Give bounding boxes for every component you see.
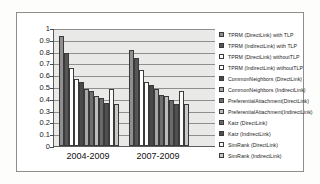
legend-item: TPRM (DirectLink) with TLP [219, 29, 319, 40]
figure-page: 10.90.80.70.60.50.40.30.20.10 2004-20092… [0, 0, 320, 184]
legend-item: PreferentialAttachment(DirectLink) [219, 95, 319, 106]
legend-item: CommonNeighbors (IndirectLink) [219, 84, 319, 95]
x-axis-category-label: 2007-2009 [123, 151, 193, 161]
legend-label: SimRank (IndirectLink) [228, 153, 282, 159]
legend-swatch-icon [219, 76, 224, 81]
legend-label: Katz (DirectLink) [228, 120, 267, 126]
bar-group [59, 29, 119, 146]
legend-swatch-icon [219, 43, 224, 48]
legend-swatch-icon [219, 131, 224, 136]
legend-label: SimRank (DirectLink) [228, 142, 278, 148]
y-axis-label: 0.4 [40, 96, 50, 103]
group-gap [119, 145, 129, 146]
bar [184, 104, 189, 146]
legend-swatch-icon [219, 54, 224, 59]
legend-item: Katz (IndirectLink) [219, 128, 319, 139]
legend-label: Katz (IndirectLink) [228, 131, 271, 137]
x-axis-category-label: 2004-2009 [53, 151, 123, 161]
legend-swatch-icon [219, 109, 224, 114]
legend-swatch-icon [219, 120, 224, 125]
bar-groups [54, 29, 215, 146]
legend-label: TPRM (DirectLink) with TLP [228, 32, 293, 38]
chart-legend: TPRM (DirectLink) with TLPTPRM (Indirect… [219, 29, 319, 161]
y-axis-label: 0.7 [40, 60, 50, 67]
y-axis-label: 0.5 [40, 84, 50, 91]
y-axis-label: 0.9 [40, 37, 50, 44]
legend-swatch-icon [219, 98, 224, 103]
y-axis: 10.90.80.70.60.50.40.30.20.10 [17, 29, 50, 147]
legend-label: CommonNeighbors (IndirectLink) [228, 87, 306, 93]
legend-swatch-icon [219, 87, 224, 92]
y-axis-label: 0.3 [40, 108, 50, 115]
y-axis-label: 0.1 [40, 131, 50, 138]
y-axis-label: 0.6 [40, 72, 50, 79]
chart-figure-frame: 10.90.80.70.60.50.40.30.20.10 2004-20092… [16, 12, 304, 172]
legend-item: SimRank (DirectLink) [219, 139, 319, 150]
bar [114, 104, 119, 146]
legend-label: TPRM (IndirectLink) with TLP [228, 43, 297, 49]
legend-swatch-icon [219, 153, 224, 158]
legend-item: TPRM (DirectLink) withoutTLP [219, 51, 319, 62]
y-axis-tick [50, 147, 54, 148]
legend-label: TPRM (DirectLink) withoutTLP [228, 54, 299, 60]
legend-item: Katz (DirectLink) [219, 117, 319, 128]
legend-swatch-icon [219, 65, 224, 70]
legend-label: PreferentialAttachment(DirectLink) [228, 98, 309, 104]
legend-label: TPRM (IndirectLink) withoutTLP [228, 65, 303, 71]
plot-area [53, 29, 215, 147]
legend-item: TPRM (IndirectLink) withoutTLP [219, 62, 319, 73]
legend-item: TPRM (IndirectLink) with TLP [219, 40, 319, 51]
legend-label: CommonNeighbors (DirectLink) [228, 76, 302, 82]
y-axis-label: 0.2 [40, 119, 50, 126]
legend-swatch-icon [219, 32, 224, 37]
legend-item: PreferentialAttachment(IndirectLink) [219, 106, 319, 117]
legend-item: CommonNeighbors (DirectLink) [219, 73, 319, 84]
bar-group [129, 29, 189, 146]
legend-label: PreferentialAttachment(IndirectLink) [228, 109, 313, 115]
legend-swatch-icon [219, 142, 224, 147]
legend-item: SimRank (IndirectLink) [219, 150, 319, 161]
y-axis-label: 0.8 [40, 49, 50, 56]
x-axis-labels: 2004-20092007-2009 [53, 151, 215, 161]
